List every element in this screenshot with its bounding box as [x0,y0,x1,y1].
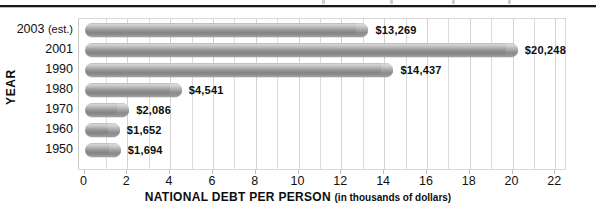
bar[interactable] [85,23,369,37]
bar-value-label: $20,248 [525,43,566,57]
x-axis-title-main: NATIONAL DEBT PER PERSON [145,190,331,204]
bar-value-label: $2,086 [136,103,171,117]
x-axis-tick-label: 14 [368,174,398,188]
bar-value-label: $4,541 [189,83,224,97]
bar[interactable] [85,83,182,97]
y-axis-tick-label: 1950 [0,139,73,159]
bar-chart: YEAR 2003 (est.)200119901980197019601950… [0,10,596,206]
y-axis-tick-label: 1960 [0,119,73,139]
bar-row[interactable]: $4,541 [79,80,565,100]
bar-value-label: $14,437 [400,63,441,77]
bar-value-label: $13,269 [375,23,416,37]
bar-value-label: $1,652 [127,123,162,137]
x-axis-tick-label: 18 [454,174,484,188]
bar[interactable] [85,43,518,57]
bar[interactable] [85,63,394,77]
x-axis-tick-label: 20 [497,174,527,188]
x-axis-tick-label: 0 [69,174,99,188]
clipped-text-artifact [322,0,325,4]
clipped-text-artifact [452,0,455,4]
bar[interactable] [85,143,121,157]
bar[interactable] [85,103,130,117]
bar-row[interactable]: $20,248 [79,40,565,60]
bar-value-label: $1,694 [128,143,163,157]
plot-area: $13,269$20,248$14,437$4,541$2,086$1,652$… [78,18,566,170]
x-axis-tick-label: 16 [411,174,441,188]
bar-row[interactable]: $1,694 [79,140,565,160]
y-axis-tick-label: 1990 [0,59,73,79]
clipped-text-artifact [508,0,511,4]
x-axis-tick-label: 8 [240,174,270,188]
clipped-text-artifact [390,0,393,4]
x-axis-tick-label: 4 [154,174,184,188]
x-axis-tick-label: 2 [111,174,141,188]
y-axis-tick-label: 2001 [0,39,73,59]
x-axis-tick-label: 22 [539,174,569,188]
bar-row[interactable]: $14,437 [79,60,565,80]
page-top-rule-shadow [0,7,596,8]
x-axis-tick-label: 6 [197,174,227,188]
y-axis-tick-label: 2003 (est.) [0,19,73,39]
y-axis-tick-label: 1980 [0,79,73,99]
bar-row[interactable]: $1,652 [79,120,565,140]
bar[interactable] [85,123,120,137]
bar-row[interactable]: $13,269 [79,20,565,40]
x-axis-title: NATIONAL DEBT PER PERSON (in thousands o… [0,190,596,204]
x-axis-title-units: (in thousands of dollars) [335,192,452,203]
x-axis-tick-label: 12 [325,174,355,188]
bar-row[interactable]: $2,086 [79,100,565,120]
x-axis-tick-label: 10 [283,174,313,188]
y-axis-tick-label: 1970 [0,99,73,119]
